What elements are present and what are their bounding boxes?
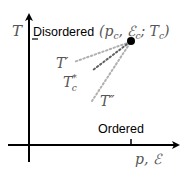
- cp-close: ): [163, 23, 169, 39]
- cp-p: p: [104, 23, 113, 39]
- cp-sep2: ;: [139, 23, 149, 39]
- t-c-star-sub: c: [72, 83, 77, 93]
- dotted-line-t-prime: [74, 42, 130, 62]
- curve-label-t-c-star: T*c: [63, 73, 77, 93]
- cp-sep1: ,: [118, 23, 127, 39]
- region-label-ordered: Ordered: [98, 122, 144, 136]
- y-axis-label: T: [12, 22, 23, 40]
- phase-diagram: T Disordered (pc, ℰc; Tc) T′ T*c T″ Orde…: [0, 0, 192, 171]
- dotted-line-t-c-star: [93, 42, 130, 70]
- curve-label-t-prime: T′: [56, 55, 69, 71]
- t-c-star-sup: *: [72, 73, 77, 83]
- region-label-disordered: Disordered: [33, 25, 94, 39]
- x-axis-label: p, ℰ: [135, 151, 163, 167]
- curve-label-t-double-prime: T″: [100, 93, 115, 109]
- critical-point-label: (pc, ℰc; Tc): [99, 23, 169, 41]
